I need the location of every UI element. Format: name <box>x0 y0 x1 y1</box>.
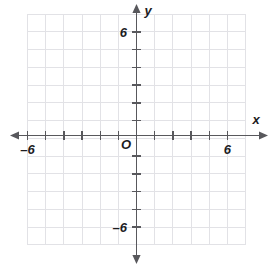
x-tick-label-negative-6: –6 <box>20 142 35 157</box>
origin-label: O <box>121 137 131 152</box>
x-axis-arrow-right <box>259 131 268 139</box>
y-axis-arrow-down <box>132 255 140 264</box>
y-axis <box>132 4 140 264</box>
coordinate-plane-graphic: –6 6 6 –6 O x y <box>0 0 275 267</box>
x-axis-label: x <box>251 112 260 127</box>
y-tick-label-positive-6: 6 <box>120 25 128 40</box>
y-axis-arrow-up <box>132 4 140 13</box>
y-axis-label: y <box>143 3 152 18</box>
coordinate-plane-screenshot: –6 6 6 –6 O x y <box>0 0 275 267</box>
x-tick-label-positive-6: 6 <box>224 142 232 157</box>
x-axis-arrow-left <box>10 131 19 139</box>
y-tick-label-negative-6: –6 <box>113 220 128 235</box>
